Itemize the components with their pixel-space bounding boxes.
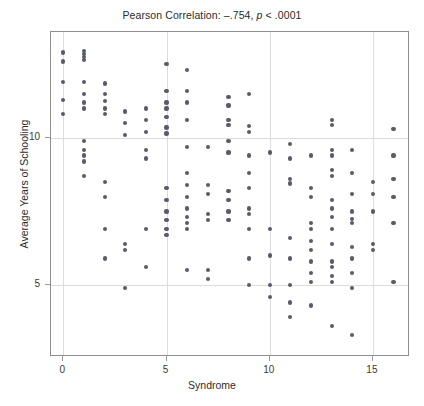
data-point xyxy=(226,189,230,193)
data-point xyxy=(82,100,86,104)
data-point xyxy=(309,248,313,252)
data-point xyxy=(164,106,168,110)
data-point xyxy=(309,153,313,157)
data-point xyxy=(371,209,375,213)
data-point xyxy=(82,58,86,62)
data-point xyxy=(350,209,354,213)
data-point xyxy=(82,159,86,163)
data-point xyxy=(82,80,86,84)
data-point xyxy=(123,109,127,113)
x-axis-tick xyxy=(166,356,167,361)
data-point xyxy=(103,256,107,260)
data-point xyxy=(61,50,65,54)
data-point xyxy=(144,130,148,134)
data-point xyxy=(247,256,251,260)
data-point xyxy=(247,283,251,287)
data-point xyxy=(164,125,168,129)
data-point xyxy=(144,148,148,152)
data-point xyxy=(144,118,148,122)
data-point xyxy=(247,124,251,128)
data-point xyxy=(288,156,292,160)
data-point xyxy=(82,139,86,143)
data-point xyxy=(330,168,334,172)
data-point xyxy=(164,100,168,104)
data-point xyxy=(350,171,354,175)
data-point xyxy=(391,177,395,181)
data-point xyxy=(103,180,107,184)
data-point xyxy=(330,148,334,152)
x-axis-tick xyxy=(372,356,373,361)
x-axis-tick-label: 15 xyxy=(357,364,387,375)
data-point xyxy=(350,256,354,260)
data-point xyxy=(61,98,65,102)
data-point xyxy=(350,286,354,290)
data-point xyxy=(268,295,272,299)
data-point xyxy=(268,283,272,287)
data-point xyxy=(330,280,334,284)
data-point xyxy=(185,183,189,187)
data-point xyxy=(123,121,127,125)
data-point xyxy=(144,227,148,231)
data-point xyxy=(185,68,189,72)
data-point xyxy=(185,118,189,122)
data-point xyxy=(123,286,127,290)
data-point xyxy=(185,100,189,104)
data-point xyxy=(268,253,272,257)
data-point xyxy=(103,99,107,103)
data-point xyxy=(247,186,251,190)
gridline-horizontal xyxy=(51,285,408,286)
data-point xyxy=(226,198,230,202)
data-point xyxy=(103,195,107,199)
data-point xyxy=(206,183,210,187)
x-axis-tick xyxy=(62,356,63,361)
chart-title-suffix: < .0001 xyxy=(263,9,302,21)
data-point xyxy=(309,271,313,275)
data-point xyxy=(309,227,313,231)
data-point xyxy=(350,271,354,275)
data-point xyxy=(164,186,168,190)
data-point xyxy=(164,233,168,237)
data-point xyxy=(226,139,230,143)
data-point xyxy=(330,153,334,157)
data-point xyxy=(268,150,272,154)
data-point xyxy=(185,221,189,225)
data-point xyxy=(247,212,251,216)
data-point xyxy=(226,123,230,127)
data-point xyxy=(247,153,251,157)
data-point xyxy=(391,221,395,225)
data-point xyxy=(226,218,230,222)
data-point xyxy=(371,192,375,196)
data-point xyxy=(206,192,210,196)
data-point xyxy=(391,280,395,284)
data-point xyxy=(309,239,313,243)
data-point xyxy=(123,133,127,137)
data-point xyxy=(268,227,272,231)
data-point xyxy=(350,245,354,249)
plot-area xyxy=(50,31,409,356)
data-point xyxy=(103,92,107,96)
data-point xyxy=(123,248,127,252)
data-point xyxy=(309,186,313,190)
data-point xyxy=(350,221,354,225)
data-point xyxy=(226,95,230,99)
data-point xyxy=(82,148,86,152)
data-point xyxy=(185,227,189,231)
data-point xyxy=(103,112,107,116)
data-point xyxy=(226,150,230,154)
data-point xyxy=(247,227,251,231)
data-point xyxy=(330,118,334,122)
data-point xyxy=(82,153,86,157)
data-point xyxy=(288,236,292,240)
x-axis-tick-label: 10 xyxy=(254,364,284,375)
data-point xyxy=(206,212,210,216)
data-point xyxy=(309,221,313,225)
data-point xyxy=(103,81,107,85)
data-point xyxy=(82,106,86,110)
data-point xyxy=(144,106,148,110)
data-point xyxy=(309,259,313,263)
x-axis-tick-label: 0 xyxy=(47,364,77,375)
data-point xyxy=(288,315,292,319)
scatter-plot-figure: Pearson Correlation: –.754, p < .0001 05… xyxy=(0,0,424,406)
data-point xyxy=(226,118,230,122)
data-point xyxy=(247,92,251,96)
